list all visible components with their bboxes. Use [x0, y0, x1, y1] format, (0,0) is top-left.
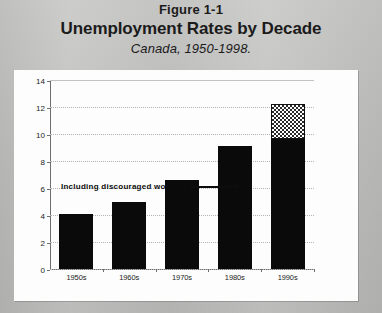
- figure-subtitle: Canada, 1950-1998.: [0, 40, 382, 57]
- bar-segment-rate-1970s: [165, 180, 199, 269]
- x-tick-mark-4: [314, 269, 315, 272]
- figure-title: Unemployment Rates by Decade: [0, 18, 382, 39]
- y-tick-label-10: 10: [36, 131, 45, 140]
- figure-number: Figure 1-1: [0, 2, 382, 17]
- x-tick-mark-3: [261, 269, 262, 272]
- x-tick-mark-0: [103, 269, 104, 272]
- x-tick-label-1980s: 1980s: [215, 273, 255, 282]
- annotation-callout: Including discouraged workers: [61, 182, 247, 191]
- bar-segment-rate-1950s: [59, 214, 93, 269]
- x-tick-label-1970s: 1970s: [162, 273, 202, 282]
- arrow-right-icon: [191, 183, 247, 190]
- bars-layer: [50, 80, 314, 269]
- bar-segment-rate-1990s: [271, 139, 305, 269]
- bar-segment-discouraged-1990s: [271, 104, 305, 139]
- bar-segment-rate-1980s: [218, 146, 252, 269]
- y-tick-label-6: 6: [41, 185, 45, 194]
- annotation-label: Including discouraged workers: [61, 182, 187, 191]
- y-tick-label-12: 12: [36, 104, 45, 113]
- x-tick-label-1990s: 1990s: [268, 273, 308, 282]
- x-tick-mark-2: [208, 269, 209, 272]
- plot-wrapper: 02468101214 1950s1960s1970s1980s1990s In…: [14, 70, 358, 301]
- y-tick-label-2: 2: [41, 239, 45, 248]
- y-tick-label-8: 8: [41, 158, 45, 167]
- y-tick-label-0: 0: [41, 266, 45, 275]
- x-tick-label-1950s: 1950s: [56, 273, 96, 282]
- chart-panel: 02468101214 1950s1960s1970s1980s1990s In…: [14, 70, 358, 301]
- bar-segment-rate-1960s: [112, 202, 146, 270]
- x-tick-label-1960s: 1960s: [109, 273, 149, 282]
- gridline-0: 0: [50, 269, 314, 271]
- y-tick-label-14: 14: [36, 77, 45, 86]
- y-tick-mark-0: [47, 270, 50, 271]
- x-tick-mark-1: [156, 269, 157, 272]
- y-tick-label-4: 4: [41, 212, 45, 221]
- figure-header: Figure 1-1 Unemployment Rates by Decade …: [0, 0, 382, 57]
